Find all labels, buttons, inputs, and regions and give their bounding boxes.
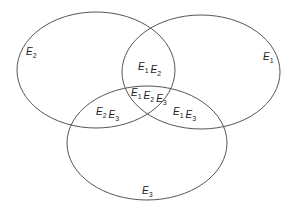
set-outlines bbox=[17, 12, 280, 200]
region-e1e3-label: E1E3 bbox=[173, 106, 196, 122]
set-e1-label: E1 bbox=[263, 51, 274, 64]
region-e2e3-label: E2E3 bbox=[96, 106, 119, 122]
set-e2-label: E2 bbox=[26, 46, 37, 59]
set-e3-outline bbox=[67, 86, 227, 200]
set-e3-label: E3 bbox=[142, 185, 153, 198]
venn-diagram: E1E2E3 E1E2E1E2E3E2E3E1E3 bbox=[0, 0, 294, 210]
region-e1e2e3-label: E1E2E3 bbox=[131, 87, 167, 106]
region-e1e2-label: E1E2 bbox=[138, 61, 161, 77]
